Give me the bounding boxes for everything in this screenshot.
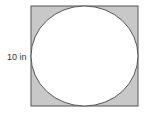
inscribed-circle [31, 6, 138, 106]
side-length-label: 10 in [7, 52, 27, 62]
